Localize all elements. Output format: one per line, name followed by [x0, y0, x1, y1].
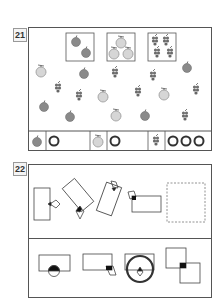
question-22-frame	[28, 164, 212, 298]
scattered-fruits	[36, 62, 199, 122]
answer-row-21	[28, 131, 212, 151]
question-number-22: 22	[13, 162, 27, 176]
question-22-divider	[28, 238, 212, 239]
group-box-apples	[66, 33, 94, 61]
group-box-grapes	[148, 33, 176, 61]
group-box-melons	[107, 33, 135, 61]
